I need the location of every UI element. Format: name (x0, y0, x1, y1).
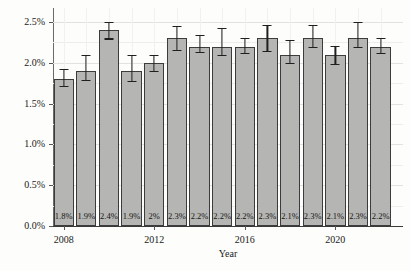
bar-value-label: 1.8% (55, 212, 73, 221)
x-axis-tick (154, 226, 155, 230)
bar (54, 79, 74, 226)
error-bar-cap-top (59, 69, 68, 70)
bar-value-label: 1.9% (77, 212, 95, 221)
error-bar (335, 46, 336, 64)
error-bar (244, 38, 245, 53)
error-bar (86, 55, 87, 80)
bar-value-label: 2.3% (304, 212, 322, 221)
error-bar-cap-bottom (127, 81, 136, 82)
bar-value-label: 2% (149, 212, 160, 221)
error-bar-cap-top (150, 55, 159, 56)
error-bar-cap-bottom (172, 50, 181, 51)
plot-area: 1.8%1.9%2.4%1.9%2%2.3%2.2%2.2%2.2%2.3%2.… (53, 8, 403, 226)
error-bar (267, 25, 268, 51)
y-axis-tick (49, 104, 53, 105)
x-axis-label: 2008 (54, 234, 74, 245)
error-bar-cap-top (263, 25, 272, 26)
bar-value-label: 2.2% (213, 212, 231, 221)
bar-value-label: 2.2% (372, 212, 390, 221)
error-bar-cap-top (172, 26, 181, 27)
bar-value-label: 2.1% (281, 212, 299, 221)
x-axis-label: 2012 (144, 234, 164, 245)
error-bar (176, 26, 177, 50)
error-bar-cap-bottom (353, 47, 362, 48)
bar (189, 47, 209, 226)
bar-value-label: 2.2% (236, 212, 254, 221)
x-axis-tick (335, 226, 336, 230)
bar-value-label: 1.9% (123, 212, 141, 221)
y-axis-tick (49, 226, 53, 227)
bar-value-label: 2.3% (168, 212, 186, 221)
x-axis-label: 2016 (235, 234, 255, 245)
error-bar-cap-top (195, 35, 204, 36)
bar (348, 38, 368, 226)
x-axis-tick (245, 226, 246, 230)
error-bar-cap-bottom (263, 51, 272, 52)
y-axis-label: 0.5% (5, 180, 45, 190)
x-axis-line (53, 226, 403, 227)
bar (325, 55, 345, 226)
error-bar (222, 28, 223, 55)
error-bar-cap-bottom (331, 64, 340, 65)
error-bar-cap-top (218, 28, 227, 29)
bar-value-label: 2.3% (259, 212, 277, 221)
bar (76, 71, 96, 226)
bar (370, 47, 390, 226)
error-bar-cap-bottom (308, 47, 317, 48)
x-axis-title: Year (53, 248, 403, 259)
error-bar (312, 25, 313, 47)
error-bar-cap-bottom (376, 53, 385, 54)
bar-value-label: 2.4% (100, 212, 118, 221)
x-axis-label: 2020 (325, 234, 345, 245)
bar (99, 30, 119, 226)
bar-value-label: 2.3% (349, 212, 367, 221)
y-axis-tick (49, 144, 53, 145)
bar (280, 55, 300, 226)
error-bar-cap-bottom (104, 38, 113, 39)
error-bar (357, 22, 358, 46)
error-bar-cap-bottom (59, 86, 68, 87)
error-bar-cap-top (286, 40, 295, 41)
error-bar (63, 69, 64, 86)
bar (167, 38, 187, 226)
error-bar-cap-top (82, 55, 91, 56)
y-axis-label: 1.0% (5, 139, 45, 149)
y-axis-label: 0.0% (5, 221, 45, 231)
bar-chart-figure: 1.8%1.9%2.4%1.9%2%2.3%2.2%2.2%2.2%2.3%2.… (0, 0, 411, 271)
bar (257, 38, 277, 226)
bar (303, 38, 323, 226)
y-axis-label: 2.5% (5, 17, 45, 27)
error-bar (131, 55, 132, 81)
y-axis-tick (49, 22, 53, 23)
bar-value-label: 2.1% (326, 212, 344, 221)
error-bar-cap-top (240, 38, 249, 39)
error-bar (289, 40, 290, 63)
error-bar-cap-top (308, 25, 317, 26)
error-bar-cap-bottom (286, 63, 295, 64)
y-axis-label: 1.5% (5, 99, 45, 109)
error-bar (199, 35, 200, 52)
error-bar-cap-top (353, 22, 362, 23)
bar (235, 47, 255, 226)
error-bar (154, 55, 155, 71)
error-bar-cap-bottom (218, 55, 227, 56)
bar (121, 71, 141, 226)
bar (144, 63, 164, 226)
error-bar-cap-top (104, 22, 113, 23)
y-axis-tick (49, 185, 53, 186)
error-bar-cap-bottom (195, 52, 204, 53)
error-bar-cap-top (376, 38, 385, 39)
error-bar (380, 38, 381, 53)
y-axis-label: 2.0% (5, 58, 45, 68)
y-axis-tick (49, 63, 53, 64)
error-bar-cap-bottom (150, 71, 159, 72)
error-bar-cap-bottom (82, 80, 91, 81)
bar-value-label: 2.2% (191, 212, 209, 221)
error-bar-cap-top (331, 46, 340, 47)
error-bar-cap-bottom (240, 53, 249, 54)
error-bar (108, 22, 109, 38)
bar (212, 47, 232, 226)
error-bar-cap-top (127, 55, 136, 56)
x-axis-tick (64, 226, 65, 230)
